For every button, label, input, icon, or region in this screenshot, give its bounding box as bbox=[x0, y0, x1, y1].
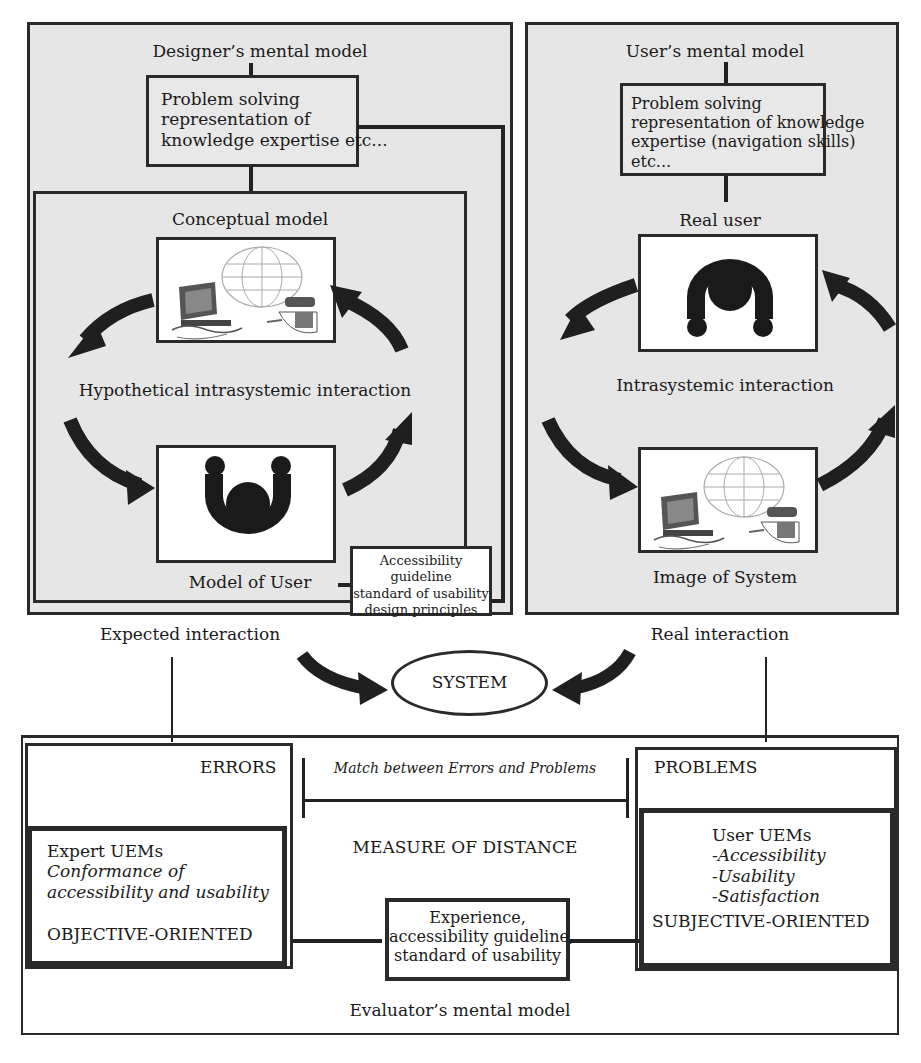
user-uems-item: -Satisfaction bbox=[644, 886, 890, 906]
experience-line: standard of usability bbox=[389, 946, 566, 965]
experience-line: accessibility guideline, bbox=[389, 927, 566, 946]
experience-line: Experience, bbox=[389, 908, 566, 927]
expert-uems-line: Conformance of bbox=[47, 861, 282, 881]
subjective-oriented-label: SUBJECTIVE-ORIENTED bbox=[644, 911, 890, 931]
experience-box: Experience, accessibility guideline, sta… bbox=[385, 898, 570, 981]
expert-uems-box: Expert UEMs Conformance of accessibility… bbox=[27, 826, 287, 966]
user-uems-title: User UEMs bbox=[644, 825, 890, 845]
problems-label: PROBLEMS bbox=[654, 757, 757, 777]
match-label: Match between Errors and Problems bbox=[305, 760, 625, 777]
expert-uems-title: Expert UEMs bbox=[47, 841, 282, 861]
user-uems-item: -Usability bbox=[644, 866, 890, 886]
evaluator-mental-model-label: Evaluator’s mental model bbox=[320, 1000, 600, 1020]
objective-oriented-label: OBJECTIVE-ORIENTED bbox=[47, 924, 282, 944]
user-uems-box: User UEMs -Accessibility -Usability -Sat… bbox=[639, 808, 895, 968]
errors-label: ERRORS bbox=[200, 757, 276, 777]
user-uems-item: -Accessibility bbox=[644, 845, 890, 865]
measure-of-distance-label: MEASURE OF DISTANCE bbox=[305, 837, 625, 857]
expert-uems-line: accessibility and usability bbox=[47, 882, 282, 902]
